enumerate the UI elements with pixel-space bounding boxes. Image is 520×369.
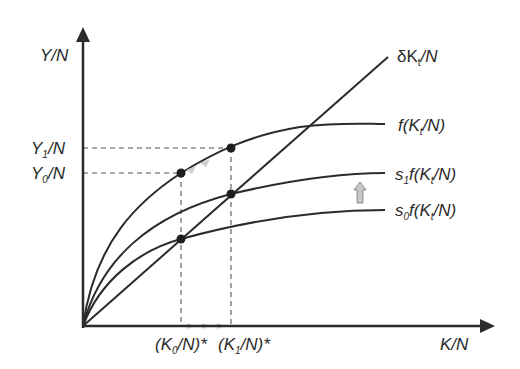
production-curve [83,124,385,326]
y-axis-arrow-icon [76,27,90,42]
savings-1-label: s1f(Kt/N) [395,165,456,186]
steady-state-1-point [227,190,236,199]
depreciation-label: δKt/N [397,47,438,68]
solow-diagram: Y/N K/N Y1/N Y0/N (K0/N)* (K1/N)* δKt/N … [0,0,520,369]
shift-up-arrow-icon [354,182,366,203]
y1-tick-label: Y1/N [31,139,66,160]
savings-0-curve [83,210,385,326]
k1-tick-label: (K1/N)* [218,335,271,356]
y1-point [227,144,236,153]
steady-state-0-point [177,235,186,244]
depreciation-line [83,57,388,326]
transition-markers [186,159,225,329]
savings-0-label: s0f(Kt/N) [395,201,456,222]
x-axis-arrow-icon [480,319,495,333]
production-label: f(Kt/N) [398,116,445,137]
x-axis-label: K/N [440,335,469,354]
y-axis-label: Y/N [40,46,69,65]
y0-point [177,169,186,178]
k0-tick-label: (K0/N)* [155,335,208,356]
y0-tick-label: Y0/N [31,164,66,185]
